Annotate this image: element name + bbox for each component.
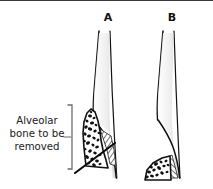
panel-a-group — [75, 31, 117, 178]
callout-line-3: removed — [14, 141, 59, 152]
panel-label-a: A — [104, 11, 113, 24]
panel-b-group — [145, 31, 180, 180]
callout-bracket-group — [64, 105, 72, 169]
dental-illustration: A B Alveolar bone to be removed — [0, 0, 213, 189]
figure-container: A B Alveolar bone to be removed — [0, 0, 213, 189]
callout-line-1: Alveolar — [16, 115, 58, 126]
callout-line-2: bone to be — [10, 128, 65, 139]
panel-label-b: B — [168, 11, 176, 24]
